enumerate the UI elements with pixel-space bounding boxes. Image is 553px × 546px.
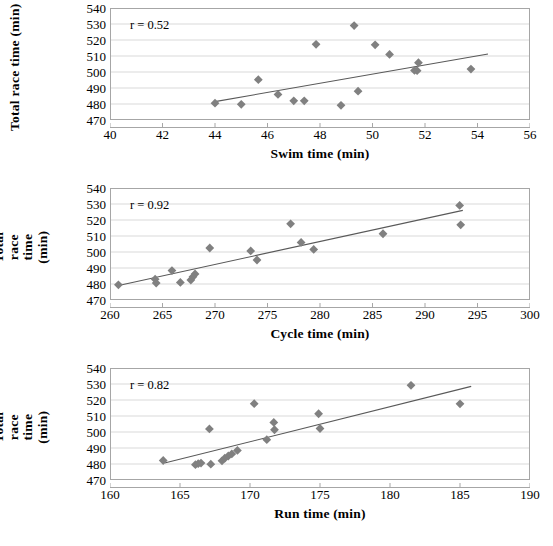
y-tick-swim: 530 [87,18,107,31]
data-point-marker [407,381,416,390]
y-tick-labels-run: 470480490500510520530540 [62,368,106,480]
data-point-marker [385,50,394,59]
chart-panel-cycle: Total race time (min) 470480490500510520… [0,180,553,360]
data-point-marker [114,280,123,289]
x-tick-swim: 44 [209,128,222,141]
data-point-marker [237,100,246,109]
y-tick-labels-swim: 470480490500510520530540 [62,8,106,120]
correlation-annotation-run: r = 0.82 [130,378,169,393]
x-tick-cycle: 295 [468,308,488,321]
x-tick-cycle: 280 [310,308,330,321]
y-tick-cycle: 530 [87,198,107,211]
x-tick-swim: 40 [104,128,117,141]
plot-frame [111,189,530,300]
y-axis-label-cycle: Total race time (min) [0,180,42,315]
chart-panel-swim: Total race time (min) 470480490500510520… [0,0,553,180]
y-tick-swim: 540 [87,2,107,15]
y-axis-label-line2: (min) [35,231,50,264]
data-point-marker [250,399,259,408]
data-point-marker [269,418,278,427]
y-tick-labels-cycle: 470480490500510520530540 [62,188,106,300]
data-point-marker [211,99,220,108]
data-point-marker [337,101,346,110]
y-tick-run: 520 [87,394,107,407]
x-tick-swim: 52 [419,128,432,141]
figure-sheet: Total race time (min) 470480490500510520… [0,0,553,546]
y-axis-label-line1: Total race time [0,232,35,263]
x-axis-line-cycle [110,300,530,308]
x-tick-cycle: 285 [363,308,383,321]
y-tick-cycle: 500 [87,246,107,259]
data-point-marker [254,75,263,84]
y-axis-label-run: Total race time (min) [0,360,42,495]
x-axis-line-swim [110,120,530,128]
x-tick-cycle: 260 [100,308,120,321]
x-tick-swim: 56 [524,128,537,141]
x-tick-cycle: 265 [153,308,173,321]
data-point-marker [371,40,380,49]
y-tick-swim: 470 [87,114,107,127]
correlation-annotation-swim: r = 0.52 [130,18,169,33]
x-axis-label-cycle: Cycle time (min) [110,326,530,342]
y-tick-cycle: 510 [87,230,107,243]
scatter-svg-cycle [110,188,530,300]
y-tick-swim: 510 [87,50,107,63]
correlation-annotation-cycle: r = 0.92 [130,198,169,213]
data-point-marker [379,229,388,238]
data-point-marker [455,201,464,210]
y-tick-swim: 480 [87,98,107,111]
x-axis-line-run [110,480,530,488]
x-axis-label-swim: Swim time (min) [110,146,530,162]
x-tick-cycle: 300 [520,308,540,321]
plot-frame [111,9,530,120]
x-tick-cycle: 270 [205,308,225,321]
x-tick-labels-cycle: 260265270275280285290295300 [110,308,530,326]
data-point-marker [176,278,185,287]
y-tick-cycle: 480 [87,278,107,291]
y-tick-cycle: 470 [87,294,107,307]
data-point-marker [350,21,359,30]
y-tick-run: 530 [87,378,107,391]
x-tick-run: 185 [450,488,470,501]
x-tick-run: 190 [520,488,540,501]
x-axis-label-run: Run time (min) [110,506,530,522]
x-tick-swim: 54 [471,128,484,141]
y-tick-run: 480 [87,458,107,471]
trendline [165,386,472,463]
y-axis-label-line2: (min) [35,411,50,444]
data-point-marker [270,425,279,434]
y-tick-cycle: 490 [87,262,107,275]
plot-area-run [110,368,530,480]
data-point-marker [456,220,465,229]
y-tick-swim: 520 [87,34,107,47]
y-axis-label-swim: Total race time (min) [0,0,30,135]
data-point-marker [205,244,214,253]
x-tick-run: 165 [170,488,190,501]
x-tick-swim: 48 [314,128,327,141]
data-point-marker [309,245,318,254]
x-tick-cycle: 275 [258,308,278,321]
data-point-marker [314,409,323,418]
x-tick-run: 175 [310,488,330,501]
y-tick-cycle: 520 [87,214,107,227]
x-tick-labels-run: 160165170175180185190 [110,488,530,506]
plot-area-cycle [110,188,530,300]
x-tick-swim: 46 [261,128,274,141]
data-point-marker [286,219,295,228]
scatter-svg-swim [110,8,530,120]
data-point-marker [456,399,465,408]
scatter-svg-run [110,368,530,480]
y-tick-run: 500 [87,426,107,439]
y-tick-cycle: 540 [87,182,107,195]
data-point-marker [246,246,255,255]
y-tick-run: 470 [87,474,107,487]
data-point-marker [253,256,262,265]
y-tick-run: 510 [87,410,107,423]
data-point-marker [206,460,215,469]
y-tick-swim: 490 [87,82,107,95]
x-tick-labels-swim: 404244464850525456 [110,128,530,146]
x-tick-run: 170 [240,488,260,501]
data-point-marker [312,40,321,49]
chart-panel-run: Total race time (min) 470480490500510520… [0,360,553,546]
x-tick-run: 160 [100,488,120,501]
